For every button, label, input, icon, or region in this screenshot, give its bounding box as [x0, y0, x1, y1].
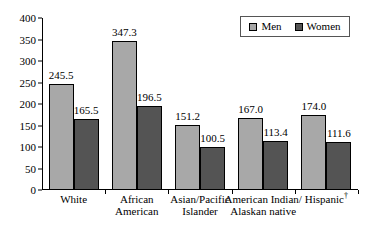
bar-women-0	[74, 119, 99, 190]
y-axis-tick-mark	[38, 104, 42, 105]
bar-value-label: 165.5	[74, 105, 99, 116]
bar-women-1	[137, 106, 162, 190]
bar-women-3	[263, 141, 288, 190]
bar-value-label: 151.2	[175, 111, 200, 122]
y-axis-tick-mark	[38, 147, 42, 148]
bar-men-3	[238, 118, 263, 190]
bar-value-label: 113.4	[264, 127, 288, 138]
bar-women-4	[326, 142, 351, 190]
bar-value-label: 196.5	[137, 92, 162, 103]
bar-men-1	[112, 41, 137, 190]
footnote-dagger: †	[344, 191, 348, 200]
bar-men-4	[301, 115, 326, 190]
y-axis-tick-mark	[38, 61, 42, 62]
y-axis-tick-mark	[38, 125, 42, 126]
bar-chart: Men Women 050100150200250300350400 245.5…	[0, 0, 374, 240]
bar-men-0	[49, 84, 74, 190]
bar-men-2	[175, 125, 200, 190]
y-axis-tick-mark	[38, 168, 42, 169]
bar-women-2	[200, 147, 225, 190]
bar-value-label: 174.0	[302, 101, 327, 112]
bar-value-label: 245.5	[49, 70, 74, 81]
bar-value-label: 100.5	[200, 133, 225, 144]
y-axis-tick-mark	[38, 18, 42, 19]
y-axis-tick-mark	[38, 39, 42, 40]
bar-value-label: 167.0	[238, 104, 263, 115]
y-axis-tick-mark	[38, 82, 42, 83]
bar-value-label: 111.6	[327, 128, 351, 139]
bar-value-label: 347.3	[112, 27, 137, 38]
x-axis-category-label: Hispanic†	[287, 193, 366, 205]
y-axis-tick-mark	[38, 190, 42, 191]
